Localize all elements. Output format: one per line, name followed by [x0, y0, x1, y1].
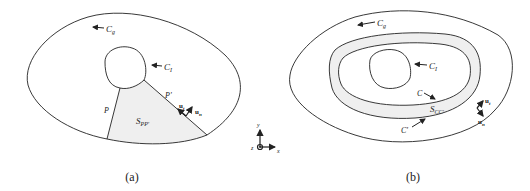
caption-a: (a) [125, 170, 138, 184]
coordinate-axes: y x z [250, 122, 280, 154]
panel-b: Cg CI C C' SCC' ut un (b) [290, 11, 513, 184]
label-ci: CI [164, 62, 173, 73]
arrow-cg-icon [93, 27, 104, 28]
arrow-cg-icon [358, 22, 375, 25]
normal-vector-icon [477, 108, 483, 116]
panel-a: Cg CI P P' SPP' ut un (a) [27, 13, 240, 184]
label-cg: Cg [106, 24, 115, 35]
arrow-c-prime-icon [412, 119, 425, 127]
diagram-canvas: Cg CI P P' SPP' ut un (a) y x z [0, 0, 530, 191]
label-ut: ut [485, 97, 491, 106]
label-y: y [256, 122, 260, 128]
label-p-prime: P' [164, 91, 172, 100]
label-un: un [195, 108, 202, 117]
label-p: P [103, 106, 109, 115]
arrow-ci-icon [415, 64, 427, 65]
label-ut: ut [179, 102, 185, 111]
contour-c [339, 43, 471, 106]
label-c-prime: C' [401, 126, 408, 135]
caption-b: (b) [406, 170, 420, 184]
inner-contour-ci [105, 47, 146, 89]
label-x: x [276, 148, 280, 154]
tangent-vector-icon [477, 101, 483, 108]
normal-vector-icon [186, 107, 192, 116]
label-un: un [478, 118, 485, 127]
region-spp [107, 80, 207, 144]
arrow-ci-icon [152, 65, 162, 66]
inner-contour-ci [370, 49, 411, 88]
label-ci: CI [429, 61, 438, 72]
label-z: z [250, 145, 254, 151]
label-cg: Cg [377, 18, 386, 29]
arrow-c-icon [424, 93, 435, 99]
label-c: C [417, 89, 423, 98]
